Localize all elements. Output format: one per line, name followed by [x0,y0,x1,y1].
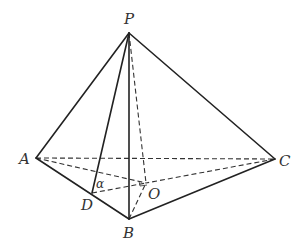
edge-AC [36,158,275,159]
label-D: D [80,196,93,214]
edge-PC [129,33,275,159]
pyramid-diagram: P A C B D O α [0,0,306,245]
angle-alpha-label: α [96,177,104,191]
label-B: B [122,224,134,242]
edge-PO [129,33,146,183]
edge-CO [146,159,275,183]
label-P: P [123,10,135,28]
label-C: C [279,152,291,170]
label-O: O [148,185,160,203]
label-A: A [17,150,30,168]
